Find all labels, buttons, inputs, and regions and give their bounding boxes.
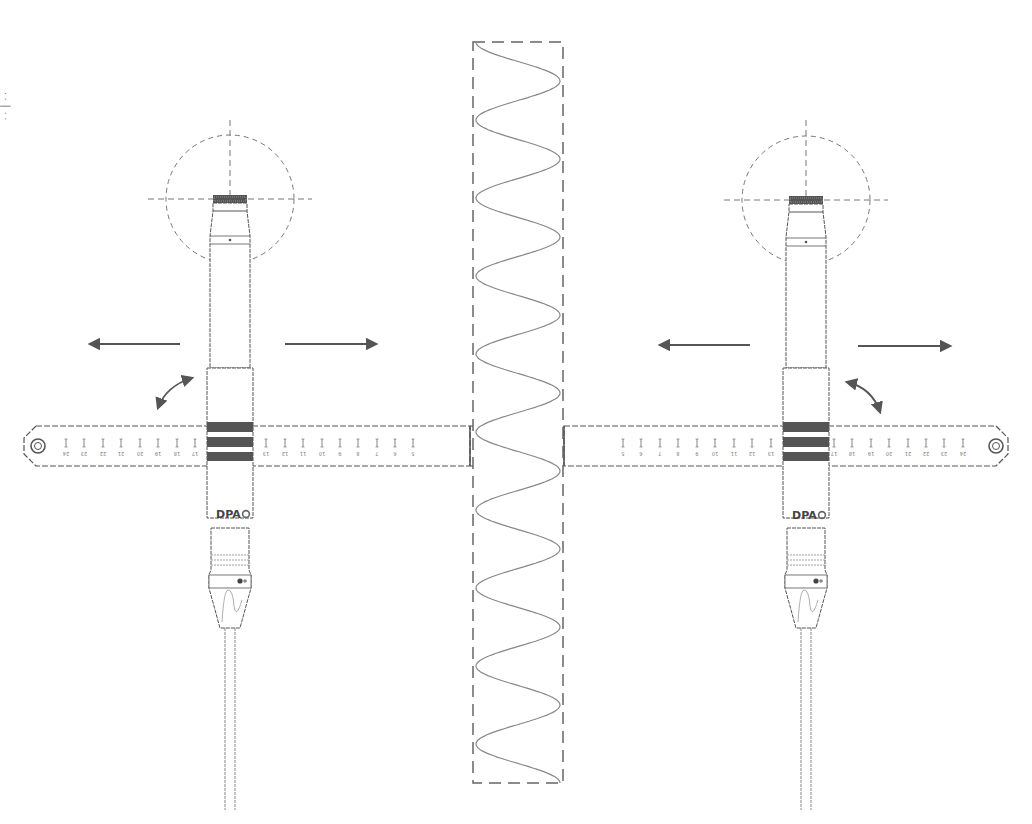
ruler-tick-label: 9 xyxy=(695,451,698,457)
ruler-tick-label: 21 xyxy=(118,451,124,457)
ruler-tick-label: 20 xyxy=(137,451,143,457)
ruler-tick-label: 21 xyxy=(905,451,911,457)
ruler-tick-label: 22 xyxy=(100,451,106,457)
ruler-tick-label: 19 xyxy=(868,451,874,457)
ruler-tick-label: 22 xyxy=(923,451,929,457)
ruler-tick-label: 18 xyxy=(849,451,855,457)
ruler-tick-label: 11 xyxy=(300,451,306,457)
ruler-tick-label: 7 xyxy=(375,451,378,457)
ruler-tick-label: 17 xyxy=(192,451,198,457)
center-sine-separator xyxy=(473,42,563,783)
ruler-tick-label: 23 xyxy=(941,451,947,457)
rotate-arrow-icon xyxy=(158,378,192,408)
ruler-tick-label: 6 xyxy=(639,451,642,457)
ruler-tick-label: 20 xyxy=(886,451,892,457)
ruler-tick-label: 9 xyxy=(338,451,341,457)
ruler-tick-label: 8 xyxy=(356,451,359,457)
ruler-tick-label: 10 xyxy=(712,451,718,457)
ruler-tick-label: 8 xyxy=(676,451,679,457)
ruler-tick-label: 24 xyxy=(63,451,69,457)
ruler-tick-label: 24 xyxy=(960,451,966,457)
ruler-tick-label: 6 xyxy=(393,451,396,457)
ruler-tick-label: 13 xyxy=(263,451,269,457)
dpa-logo: DPA xyxy=(216,508,241,521)
ruler-tick-label: 12 xyxy=(282,451,288,457)
dpa-logo: DPA xyxy=(792,509,817,522)
mount-hole-icon xyxy=(31,439,45,453)
ruler-tick-label: 12 xyxy=(749,451,755,457)
ruler-tick-label: 13 xyxy=(768,451,774,457)
ruler-tick-label: 17 xyxy=(831,451,837,457)
mount-hole-icon xyxy=(989,439,1003,453)
ruler-tick-label: 5 xyxy=(411,451,414,457)
ruler-tick-label: 18 xyxy=(174,451,180,457)
ruler-tick-label: 11 xyxy=(731,451,737,457)
microphone-diagram: 24232221201918171312111098765 5678910111… xyxy=(0,0,1032,824)
ruler-tick-label: 5 xyxy=(621,451,624,457)
ruler-tick-label: 19 xyxy=(155,451,161,457)
rotate-arrow-icon xyxy=(847,382,880,412)
ruler-tick-label: 23 xyxy=(81,451,87,457)
ruler-tick-label: 10 xyxy=(319,451,325,457)
ruler-tick-label: 7 xyxy=(658,451,661,457)
